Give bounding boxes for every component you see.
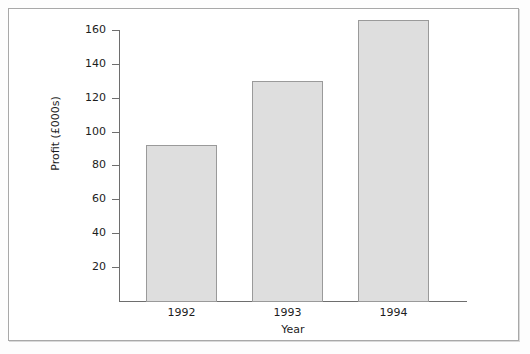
x-tick-label-1994: 1994	[358, 306, 429, 319]
y-tick-mark	[112, 199, 119, 200]
bar-1992	[146, 145, 217, 302]
y-tick-40: 40	[9, 233, 119, 234]
y-tick-mark	[112, 165, 119, 166]
y-tick-mark	[112, 30, 119, 31]
plot-area: 160 140 120 100 80 60	[9, 9, 520, 342]
y-tick-160: 160	[9, 30, 119, 31]
y-tick-20: 20	[9, 267, 119, 268]
bar-1994	[358, 20, 429, 302]
chart-page: 160 140 120 100 80 60	[0, 0, 530, 354]
y-tick-label: 160	[66, 24, 106, 35]
y-tick-label: 20	[66, 261, 106, 272]
y-tick-label: 140	[66, 58, 106, 69]
y-tick-140: 140	[9, 64, 119, 65]
y-axis-line	[119, 30, 120, 301]
y-tick-100: 100	[9, 132, 119, 133]
y-tick-120: 120	[9, 98, 119, 99]
y-axis-title: Profit (£000s)	[49, 79, 62, 189]
y-tick-label: 100	[66, 126, 106, 137]
y-tick-mark	[112, 98, 119, 99]
y-tick-mark	[112, 132, 119, 133]
y-tick-label: 120	[66, 92, 106, 103]
y-tick-label: 40	[66, 227, 106, 238]
y-tick-mark	[112, 267, 119, 268]
x-axis-title: Year	[119, 323, 467, 336]
y-tick-60: 60	[9, 199, 119, 200]
bar-1993	[252, 81, 323, 302]
y-tick-label: 60	[66, 193, 106, 204]
y-tick-label: 80	[66, 159, 106, 170]
x-tick-label-1993: 1993	[252, 306, 323, 319]
y-tick-mark	[112, 233, 119, 234]
y-tick-80: 80	[9, 165, 119, 166]
x-tick-label-1992: 1992	[146, 306, 217, 319]
y-tick-mark	[112, 64, 119, 65]
chart-frame: 160 140 120 100 80 60	[8, 8, 519, 341]
